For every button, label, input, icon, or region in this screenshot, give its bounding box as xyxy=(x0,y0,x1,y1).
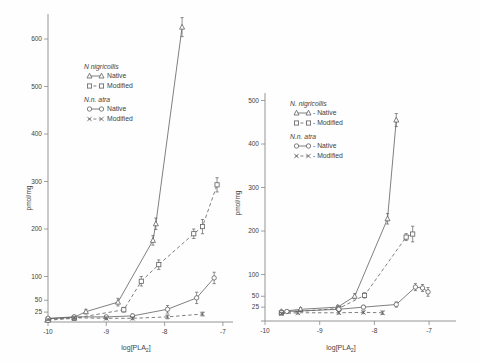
circle-marker xyxy=(306,144,310,148)
legend: N. nigricollis- Native- ModifiedN.n. atr… xyxy=(290,100,343,159)
square-marker xyxy=(215,183,219,187)
circle-marker xyxy=(361,305,365,309)
x-tick-label: -7 xyxy=(220,328,226,335)
triangle-marker xyxy=(180,24,185,29)
legend-label: - Native xyxy=(313,109,337,116)
y-tick-label: 300 xyxy=(31,178,42,185)
series-line xyxy=(281,120,396,311)
legend: N nigricollisNativeModifiedN.n. atraNati… xyxy=(84,63,133,122)
circle-marker xyxy=(420,286,424,290)
figure-svg: 2550100200300400500600-10-9-8-7log[PLA2]… xyxy=(0,0,481,363)
y-tick-label: 500 xyxy=(248,97,259,104)
x-tick-label: -9 xyxy=(317,327,323,334)
y-tick-label: 100 xyxy=(31,273,42,280)
square-marker xyxy=(122,308,126,312)
left-panel: 2550100200300400500600-10-9-8-7log[PLA2]… xyxy=(25,14,233,353)
square-marker xyxy=(306,121,310,125)
series-line xyxy=(48,278,214,318)
square-marker xyxy=(404,235,408,239)
square-marker xyxy=(200,225,204,229)
circle-marker xyxy=(413,285,417,289)
y-tick-label: 25 xyxy=(252,303,260,310)
x-axis-label: log[PLA2] xyxy=(121,344,150,353)
y-tick-label: 50 xyxy=(35,296,43,303)
x-tick-label: -10 xyxy=(260,327,270,334)
y-tick-label: 300 xyxy=(248,184,259,191)
y-tick-label: 500 xyxy=(31,83,42,90)
right-panel: 2550100200300400500-10-9-8-7log[PLA2]pmo… xyxy=(234,93,456,353)
legend-species: N nigricollis xyxy=(84,63,119,71)
axes xyxy=(44,14,233,322)
y-tick-label: 50 xyxy=(252,292,260,299)
y-tick-label: 100 xyxy=(248,271,259,278)
circle-marker xyxy=(194,296,198,300)
legend-label: Modified xyxy=(107,115,133,122)
legend-species: N.n. atra xyxy=(84,96,110,103)
y-axis-label: pmol/mg xyxy=(25,185,33,210)
legend-label: Modified xyxy=(107,82,133,89)
triangle-marker xyxy=(394,117,399,122)
x-tick-label: -8 xyxy=(372,327,378,334)
square-marker xyxy=(411,232,415,236)
legend-label: - Native xyxy=(313,142,337,149)
x-tick-label: -9 xyxy=(103,328,109,335)
series-x xyxy=(46,312,205,322)
series-square xyxy=(46,178,219,323)
square-marker xyxy=(157,263,161,267)
legend-label: - Modified xyxy=(313,119,343,126)
y-tick-label: 200 xyxy=(31,225,42,232)
circle-marker xyxy=(46,316,50,320)
square-marker xyxy=(87,84,91,88)
legend-label: Native xyxy=(107,105,126,112)
series-line xyxy=(48,314,202,319)
legend-species: N. nigricollis xyxy=(290,100,327,108)
y-tick-label: 600 xyxy=(31,35,42,42)
y-tick-label: 400 xyxy=(248,140,259,147)
circle-marker xyxy=(394,302,398,306)
legend-species: N.n. atra xyxy=(290,133,316,140)
x-marker xyxy=(294,154,298,158)
circle-marker xyxy=(165,307,169,311)
square-marker xyxy=(294,121,298,125)
x-tick-label: -7 xyxy=(426,327,432,334)
x-axis-label: log[PLA2] xyxy=(326,344,355,353)
triangle-marker xyxy=(153,221,158,226)
square-marker xyxy=(362,293,366,297)
legend-label: - Modified xyxy=(313,152,343,159)
triangle-marker xyxy=(115,299,120,304)
legend-label: Native xyxy=(107,72,126,79)
square-marker xyxy=(192,232,196,236)
y-tick-label: 200 xyxy=(248,227,259,234)
y-axis-label: pmol/mg xyxy=(234,190,242,215)
x-marker xyxy=(87,117,91,121)
figure-container: 2550100200300400500600-10-9-8-7log[PLA2]… xyxy=(0,0,481,363)
triangle-marker xyxy=(150,238,155,243)
y-tick-label: 25 xyxy=(35,308,43,315)
circle-marker xyxy=(426,290,430,294)
circle-marker xyxy=(87,107,91,111)
square-marker xyxy=(139,279,143,283)
series-line xyxy=(48,27,182,319)
y-tick-label: 400 xyxy=(31,130,42,137)
triangle-marker xyxy=(352,293,357,298)
circle-marker xyxy=(212,276,216,280)
square-marker xyxy=(99,84,103,88)
circle-marker xyxy=(294,144,298,148)
x-tick-label: -8 xyxy=(162,328,168,335)
x-tick-label: -10 xyxy=(43,328,53,335)
circle-marker xyxy=(99,107,103,111)
triangle-marker xyxy=(385,216,390,221)
